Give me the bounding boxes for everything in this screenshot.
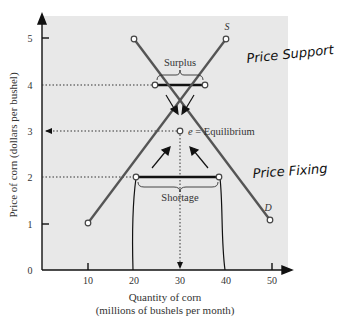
supply-demand-chart: 0 1 2 3 4 5 10 20 30 40 50 Quantity of c… bbox=[0, 0, 344, 323]
demand-end-top bbox=[131, 36, 137, 42]
svg-text:20: 20 bbox=[129, 275, 139, 286]
equilibrium-point bbox=[177, 128, 183, 134]
svg-text:30: 30 bbox=[175, 275, 185, 286]
svg-text:3: 3 bbox=[28, 126, 33, 137]
supply-end-bottom bbox=[85, 220, 91, 226]
svg-text:50: 50 bbox=[267, 275, 277, 286]
supply-label: S bbox=[225, 21, 230, 32]
svg-text:2: 2 bbox=[28, 172, 33, 183]
demand-at-4 bbox=[152, 82, 158, 88]
demand-at-2 bbox=[216, 174, 222, 180]
x-tick-labels: 10 20 30 40 50 bbox=[83, 275, 277, 286]
demand-end-bottom bbox=[267, 217, 273, 223]
svg-text:0: 0 bbox=[28, 265, 33, 276]
svg-text:4: 4 bbox=[28, 80, 33, 91]
svg-text:5: 5 bbox=[28, 33, 33, 44]
svg-text:10: 10 bbox=[83, 275, 93, 286]
surplus-label: Surplus bbox=[164, 57, 196, 68]
y-axis-title: Price of corn (dollars per bushel) bbox=[7, 72, 20, 217]
shortage-label: Shortage bbox=[161, 192, 199, 203]
supply-end-top bbox=[223, 36, 229, 42]
supply-at-4 bbox=[202, 82, 208, 88]
y-tick-labels: 0 1 2 3 4 5 bbox=[28, 33, 33, 276]
svg-text:1: 1 bbox=[28, 219, 33, 230]
x-axis-subtitle: (millions of bushels per month) bbox=[96, 304, 235, 317]
demand-label: D bbox=[263, 202, 272, 213]
x-axis-title: Quantity of corn bbox=[129, 291, 202, 303]
equilibrium-label: e = Equilibrium bbox=[188, 126, 255, 137]
svg-text:40: 40 bbox=[221, 275, 231, 286]
supply-at-2 bbox=[133, 174, 139, 180]
